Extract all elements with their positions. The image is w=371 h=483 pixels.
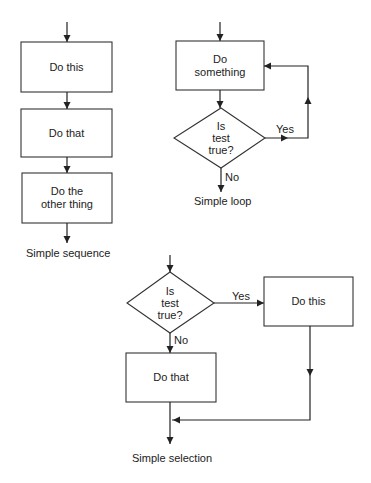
node-label: Do this bbox=[264, 277, 353, 326]
arrowhead-icon bbox=[64, 236, 71, 243]
node-text: Do this bbox=[291, 295, 325, 308]
arrowhead-icon bbox=[217, 101, 224, 108]
node-label: Do the other thing bbox=[22, 173, 112, 223]
node-text: Do the bbox=[51, 185, 83, 198]
arrowhead-icon bbox=[173, 417, 180, 424]
node-text: true? bbox=[157, 309, 182, 321]
arrowhead-icon bbox=[305, 97, 312, 104]
decision-label: Is test true? bbox=[191, 118, 251, 158]
arrowhead-icon bbox=[257, 300, 264, 307]
arrowhead-icon bbox=[307, 369, 314, 376]
arrowhead-icon bbox=[64, 166, 71, 173]
node-text: true? bbox=[208, 144, 233, 156]
node-text: other thing bbox=[41, 198, 93, 211]
node-label: Do that bbox=[126, 353, 216, 402]
decision-label: Is test true? bbox=[140, 283, 200, 323]
node-label: Do something bbox=[176, 41, 264, 90]
no-label: No bbox=[225, 171, 239, 184]
arrowhead-icon bbox=[167, 265, 174, 272]
node-text: Do that bbox=[49, 127, 84, 140]
yes-label: Yes bbox=[232, 290, 250, 303]
arrowhead-icon bbox=[217, 34, 224, 41]
node-label: Do that bbox=[21, 109, 112, 157]
node-text: something bbox=[195, 66, 246, 79]
arrowhead-icon bbox=[167, 346, 174, 353]
node-text: Do this bbox=[49, 61, 83, 74]
no-label: No bbox=[174, 334, 188, 347]
diagram-caption: Simple loop bbox=[194, 195, 251, 207]
node-text: test bbox=[212, 132, 230, 144]
node-text: Do bbox=[213, 53, 227, 66]
yes-label: Yes bbox=[276, 123, 294, 136]
node-text: Is bbox=[217, 120, 226, 132]
node-label: Do this bbox=[21, 42, 112, 92]
arrowhead-icon bbox=[264, 63, 271, 70]
arrowhead-icon bbox=[64, 102, 71, 109]
diagram-caption: Simple sequence bbox=[26, 247, 110, 259]
node-text: Is bbox=[166, 285, 175, 297]
diagram-caption: Simple selection bbox=[132, 452, 212, 464]
arrowhead-icon bbox=[64, 35, 71, 42]
arrowhead-icon bbox=[218, 185, 225, 192]
node-text: test bbox=[161, 297, 179, 309]
node-text: Do that bbox=[153, 371, 188, 384]
arrowhead-icon bbox=[167, 437, 174, 444]
